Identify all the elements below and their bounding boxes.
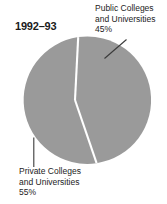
callout-private-line2: and Universities [19,177,81,188]
callout-private-value: 55% [19,187,81,198]
chart-title: 1992–93 [15,20,56,32]
callout-public-line2: and Universities [95,14,155,25]
callout-private: Private Colleges and Universities 55% [19,166,81,198]
callout-public: Public Colleges and Universities 45% [95,3,155,35]
callout-private-line1: Private Colleges [19,166,81,177]
pie-chart-figure: 1992–93 Public Colleges and Universities… [0,0,167,204]
callout-public-value: 45% [95,24,155,35]
callout-public-line1: Public Colleges [95,3,155,14]
